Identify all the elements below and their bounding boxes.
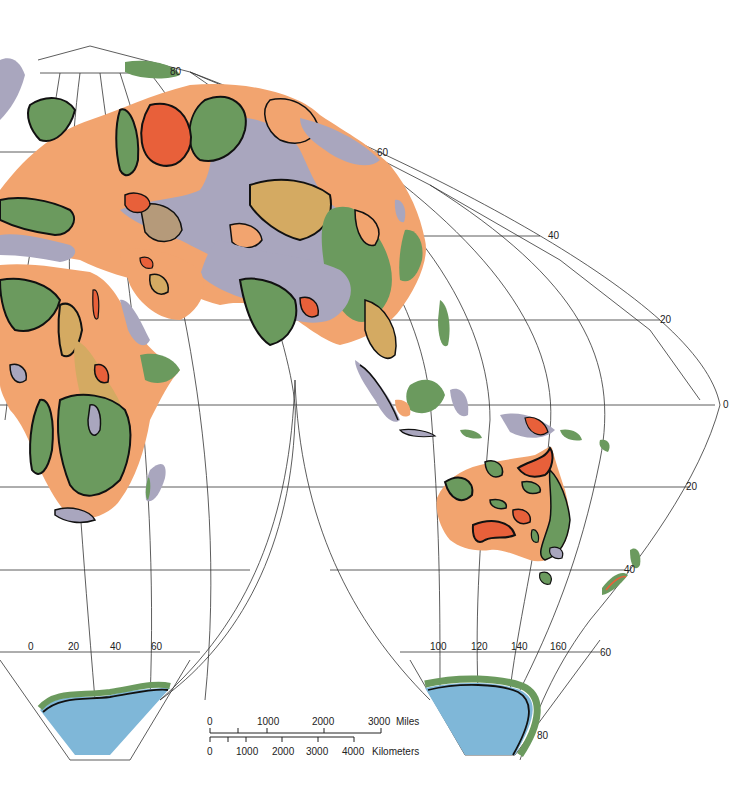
scale-km-4000: 4000 xyxy=(342,746,365,757)
scale-km-2000: 2000 xyxy=(272,746,295,757)
lat-label-60s: 60 xyxy=(600,647,612,658)
scale-bar: 0 1000 2000 3000 Miles 0 1000 2000 3000 … xyxy=(207,716,419,757)
lon-label-140: 140 xyxy=(511,641,528,652)
lat-label-40s: 40 xyxy=(624,564,636,575)
lon-label-160: 160 xyxy=(550,641,567,652)
scale-miles-1000: 1000 xyxy=(257,716,280,727)
world-map: 80 60 40 20 0 20 40 60 80 0 20 40 60 100… xyxy=(0,0,746,806)
lon-label-0: 0 xyxy=(28,641,34,652)
scale-miles-3000: 3000 xyxy=(368,716,391,727)
scale-km-unit: Kilometers xyxy=(372,746,419,757)
antarctica-right xyxy=(425,679,537,755)
scale-miles-2000: 2000 xyxy=(312,716,335,727)
lon-label-60: 60 xyxy=(151,641,163,652)
scale-miles-0: 0 xyxy=(207,716,213,727)
lat-label-40n: 40 xyxy=(548,230,560,241)
lat-label-80s: 80 xyxy=(537,730,549,741)
lon-label-20: 20 xyxy=(68,641,80,652)
lat-label-80n: 80 xyxy=(170,66,182,77)
scale-km-3000: 3000 xyxy=(306,746,329,757)
scale-miles-unit: Miles xyxy=(396,716,419,727)
australia xyxy=(437,447,641,595)
scale-km-0: 0 xyxy=(207,746,213,757)
lon-label-40: 40 xyxy=(110,641,122,652)
lat-label-20n: 20 xyxy=(660,314,672,325)
lon-label-100: 100 xyxy=(430,641,447,652)
lon-label-120: 120 xyxy=(471,641,488,652)
southeast-asia-islands xyxy=(355,300,610,452)
africa xyxy=(0,249,204,523)
lat-label-20s: 20 xyxy=(686,481,698,492)
scale-km-1000: 1000 xyxy=(236,746,259,757)
lat-label-equator: 0 xyxy=(723,399,729,410)
lat-label-60n: 60 xyxy=(377,147,389,158)
longitude-labels: 0 20 40 60 100 120 140 160 xyxy=(28,641,567,652)
